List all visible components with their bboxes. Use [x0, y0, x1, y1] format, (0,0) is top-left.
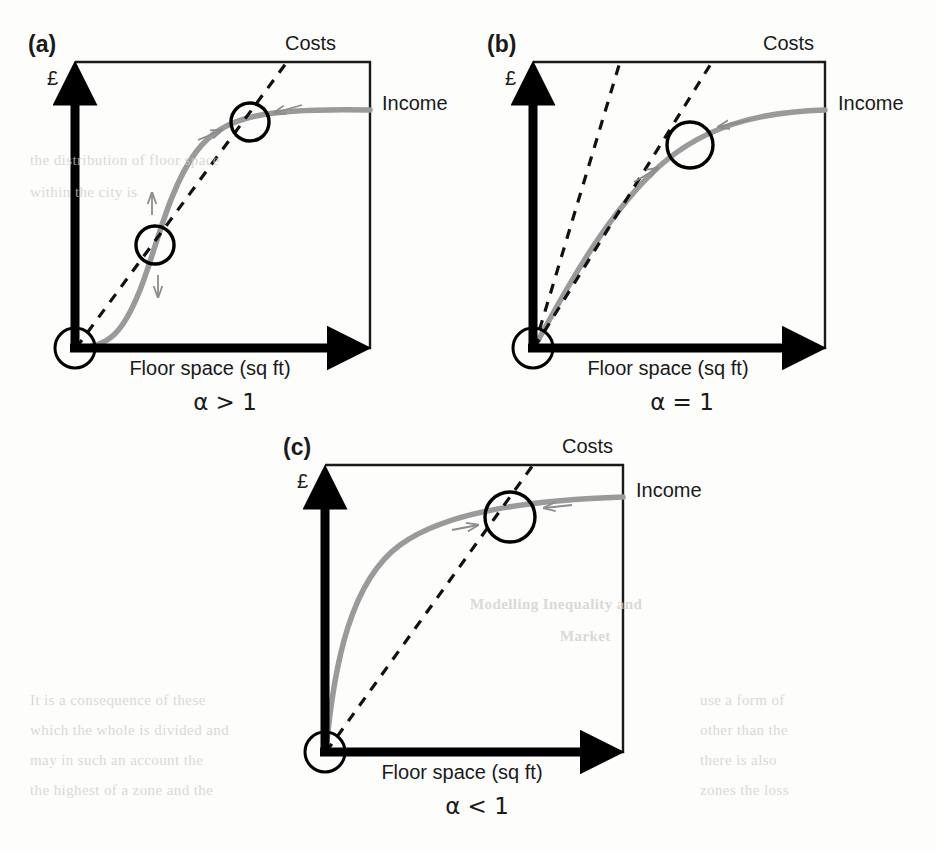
panel-a-caption: α > 1	[193, 389, 257, 415]
ghost-text-9: other than the	[700, 722, 788, 739]
panel-b-label: (b)	[487, 31, 516, 57]
ghost-text-2: the distribution of floor space	[30, 152, 220, 169]
panel-a-frame	[75, 62, 370, 348]
panel-a-income-curve	[76, 110, 370, 348]
panel-c-x-axis-label: Floor space (sq ft)	[381, 761, 542, 783]
panel-c-arrow-left	[544, 505, 572, 508]
panel-c-income-label: Income	[636, 479, 702, 501]
panel-b-caption: α = 1	[650, 389, 714, 415]
panel-c-y-axis-label: £	[297, 470, 308, 492]
ghost-text-8: use a form of	[700, 692, 785, 709]
panel-a-x-axis-label: Floor space (sq ft)	[129, 357, 290, 379]
panel-b-cost-line-steep	[534, 62, 620, 348]
panel-b-y-axis-label: £	[505, 67, 516, 89]
panel-b-frame	[533, 62, 825, 348]
panel-b: (b) £ Costs Income Floor space (sq ft) α…	[487, 31, 904, 415]
panel-a: (a) £ Costs Income Floor space (sq ft) α…	[28, 31, 448, 415]
ghost-text-4: It is a consequence of these	[30, 692, 206, 709]
panel-c-caption: α < 1	[445, 793, 509, 819]
panel-b-income-curve	[534, 110, 825, 348]
ghost-text-3: within the city is	[30, 184, 138, 201]
ghost-text-0: Modelling Inequality and	[470, 596, 642, 613]
panel-a-label: (a)	[28, 31, 56, 57]
ghost-text-6: may in such an account the	[30, 752, 203, 769]
panel-c: (c) £ Costs Income Floor space (sq ft) α…	[283, 434, 702, 819]
panel-c-label: (c)	[283, 434, 311, 460]
panel-b-costs-label: Costs	[763, 32, 814, 54]
panel-a-costs-label: Costs	[285, 32, 336, 54]
panel-c-arrow-right	[452, 525, 478, 530]
ghost-text-10: there is also	[700, 752, 777, 769]
panel-c-income-curve	[326, 497, 623, 752]
ghost-text-11: zones the loss	[700, 782, 789, 799]
panel-b-income-label: Income	[838, 92, 904, 114]
ghost-text-5: which the whole is divided and	[30, 722, 229, 739]
ghost-text-7: the highest of a zone and the	[30, 782, 213, 799]
panel-b-x-axis-label: Floor space (sq ft)	[587, 357, 748, 379]
panel-a-income-label: Income	[382, 92, 448, 114]
figure-container: Modelling Inequality and Market the dist…	[0, 0, 936, 851]
panel-a-y-axis-label: £	[47, 67, 58, 89]
panel-c-costs-label: Costs	[562, 435, 613, 457]
ghost-text-1: Market	[560, 628, 611, 645]
